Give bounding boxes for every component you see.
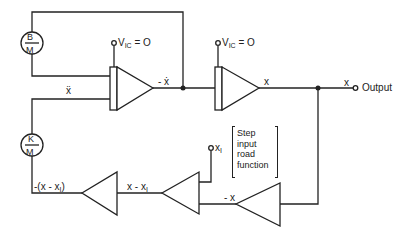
x-feedback-wire xyxy=(280,88,318,204)
bm-to-integrator1-wire xyxy=(32,54,110,76)
integrator-1 xyxy=(117,67,153,110)
bm-numerator: B xyxy=(27,32,33,42)
bm-denominator: M xyxy=(26,45,34,55)
x-label: x xyxy=(264,77,269,87)
summing-amplifier xyxy=(162,172,199,214)
step-input-note: Step input road function xyxy=(232,126,278,178)
ic2-terminal xyxy=(216,41,221,46)
x1-input-wire xyxy=(199,151,211,182)
ic1-label: VIC = O xyxy=(118,38,151,51)
ic1-terminal xyxy=(112,41,117,46)
ic2-label: VIC = O xyxy=(222,38,255,51)
neg-x-label: - x xyxy=(224,193,235,203)
neg-xdot-label: - ẋ xyxy=(158,77,169,87)
x1-label: xI xyxy=(215,143,222,156)
neg-x-minus-x1-label: -(x - xI) xyxy=(34,182,65,195)
output-terminal xyxy=(353,86,358,91)
xddot-label: ẍ xyxy=(66,86,71,96)
integrator-1-box xyxy=(110,67,117,110)
integrator-2-box xyxy=(215,67,222,110)
junction-xdot xyxy=(181,86,186,91)
km-numerator: K xyxy=(28,134,34,144)
x-minus-x1-label: x - xI xyxy=(127,182,148,195)
sign-changer-amplifier xyxy=(82,172,117,215)
km-denominator: M xyxy=(26,147,34,157)
integrator-2 xyxy=(222,67,259,110)
diagram-canvas xyxy=(0,0,403,237)
output-x-label: x xyxy=(344,78,349,88)
x1-input-terminal xyxy=(209,146,214,151)
xddot-wire xyxy=(32,99,110,134)
inverter-amplifier xyxy=(236,183,280,226)
output-label: Output xyxy=(362,83,392,93)
